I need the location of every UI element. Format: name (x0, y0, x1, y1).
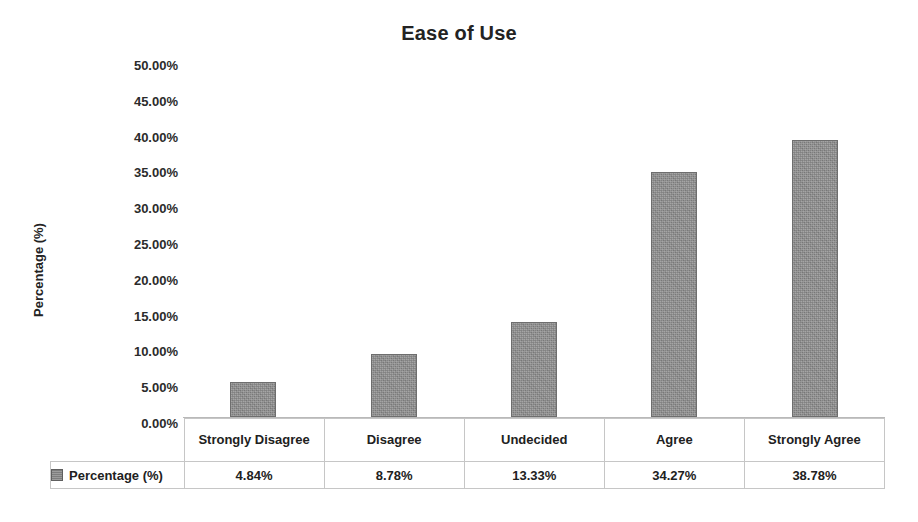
plot-area (183, 60, 885, 418)
bar-slot (464, 60, 604, 417)
table-value-cell: 38.78% (744, 462, 884, 489)
table-value-cell: 4.84% (184, 462, 324, 489)
y-axis-tick-label: 15.00% (86, 310, 178, 324)
table-row-values: Percentage (%) 4.84%8.78%13.33%34.27%38.… (51, 462, 885, 489)
y-axis-tick-label: 5.00% (86, 381, 178, 395)
y-axis-title: Percentage (%) (31, 170, 53, 370)
y-axis-tick-label: 50.00% (86, 59, 178, 73)
y-axis-tick-label: 35.00% (86, 166, 178, 180)
legend-label: Percentage (%) (69, 468, 163, 483)
bar[interactable] (371, 354, 417, 417)
y-axis-tick-label: 20.00% (86, 274, 178, 288)
table-category-cell: Disagree (324, 419, 464, 462)
table-row-categories: Strongly DisagreeDisagreeUndecidedAgreeS… (51, 419, 885, 462)
legend-entry: Percentage (%) (51, 462, 185, 489)
bar-slot (323, 60, 463, 417)
y-axis-tick-label: 40.00% (86, 131, 178, 145)
table-category-cell: Undecided (464, 419, 604, 462)
bar-slot (745, 60, 885, 417)
table-corner-cell (51, 419, 185, 462)
bar[interactable] (230, 382, 276, 417)
table-value-cell: 8.78% (324, 462, 464, 489)
y-axis-tick-label: 10.00% (86, 345, 178, 359)
y-axis-tick-labels: 50.00%45.00%40.00%35.00%30.00%25.00%20.0… (86, 66, 178, 426)
bar[interactable] (651, 172, 697, 417)
bar[interactable] (511, 322, 557, 417)
bar-slot (183, 60, 323, 417)
table-value-cell: 13.33% (464, 462, 604, 489)
table-value-cell: 34.27% (604, 462, 744, 489)
table-category-cell: Strongly Disagree (184, 419, 324, 462)
chart-container: Ease of Use Percentage (%) 50.00%45.00%4… (0, 0, 918, 522)
bar[interactable] (792, 140, 838, 417)
y-axis-tick-label: 45.00% (86, 95, 178, 109)
y-axis-tick-label: 25.00% (86, 238, 178, 252)
y-axis-tick-label: 30.00% (86, 202, 178, 216)
table-category-cell: Agree (604, 419, 744, 462)
bar-slot (604, 60, 744, 417)
data-table: Strongly DisagreeDisagreeUndecidedAgreeS… (50, 418, 885, 489)
table-category-cell: Strongly Agree (744, 419, 884, 462)
series-swatch-icon (51, 469, 63, 481)
chart-title: Ease of Use (0, 22, 918, 45)
